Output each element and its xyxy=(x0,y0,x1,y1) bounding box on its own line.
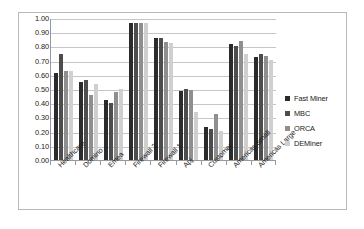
bar-group xyxy=(176,19,201,160)
y-axis-tick-labels: 1.000.900.800.700.600.500.400.300.200.10… xyxy=(22,19,49,161)
y-axis-tick-label: 0.80 xyxy=(22,44,49,51)
bar xyxy=(154,38,158,160)
bar xyxy=(134,23,138,160)
y-axis-tick-label: 0.60 xyxy=(22,72,49,79)
legend-item: Fast Miner xyxy=(285,91,347,106)
bar xyxy=(184,89,188,160)
bar xyxy=(234,46,238,160)
y-axis-tick-label: 1.00 xyxy=(22,15,49,22)
bar xyxy=(109,103,113,161)
legend-swatch-icon xyxy=(285,111,290,116)
bar-group xyxy=(126,19,151,160)
bar-group xyxy=(201,19,226,160)
bar xyxy=(164,42,168,160)
legend-label: ORCA xyxy=(294,124,315,133)
bar-groups xyxy=(51,19,276,160)
y-axis-tick-label: 0.00 xyxy=(22,157,49,164)
chart-plot-wrapper: 1.000.900.800.700.600.500.400.300.200.10… xyxy=(19,13,346,209)
chart-legend: Fast MinerMBCORCADEMiner xyxy=(285,91,347,151)
legend-label: Fast Miner xyxy=(294,94,328,103)
bar xyxy=(239,41,243,160)
bar xyxy=(59,54,63,161)
legend-label: DEMiner xyxy=(294,139,322,148)
bar xyxy=(54,73,58,160)
y-axis-tick-label: 0.70 xyxy=(22,58,49,65)
bar xyxy=(169,43,173,160)
bar xyxy=(129,23,133,160)
bar-group xyxy=(151,19,176,160)
bar xyxy=(64,71,68,160)
legend-swatch-icon xyxy=(285,96,290,101)
x-axis-category-labels: HealthcareDominoEmeaFirewall 2Firewall 1… xyxy=(50,163,300,209)
bar xyxy=(159,38,163,160)
bar-group xyxy=(101,19,126,160)
y-axis-tick-label: 0.40 xyxy=(22,100,49,107)
y-axis-tick-label: 0.50 xyxy=(22,86,49,93)
y-axis-tick-label: 0.20 xyxy=(22,129,49,136)
legend-label: MBC xyxy=(294,109,310,118)
plot-area xyxy=(50,19,276,161)
bar xyxy=(194,112,198,160)
legend-item: DEMiner xyxy=(285,136,347,151)
legend-swatch-icon xyxy=(285,126,290,131)
y-axis-tick-label: 0.30 xyxy=(22,115,49,122)
bar xyxy=(204,127,208,160)
legend-item: MBC xyxy=(285,106,347,121)
bar-group xyxy=(226,19,251,160)
chart-frame: 1.000.900.800.700.600.500.400.300.200.10… xyxy=(18,12,347,210)
legend-swatch-icon xyxy=(285,141,290,146)
bar xyxy=(139,23,143,160)
bar-group xyxy=(51,19,76,160)
y-axis-tick-label: 0.90 xyxy=(22,29,49,36)
legend-item: ORCA xyxy=(285,121,347,136)
bar xyxy=(264,56,268,160)
y-axis-tick-label: 0.10 xyxy=(22,143,49,150)
bar xyxy=(144,23,148,160)
bar xyxy=(189,90,193,160)
bar xyxy=(84,80,88,160)
bar xyxy=(244,54,248,160)
